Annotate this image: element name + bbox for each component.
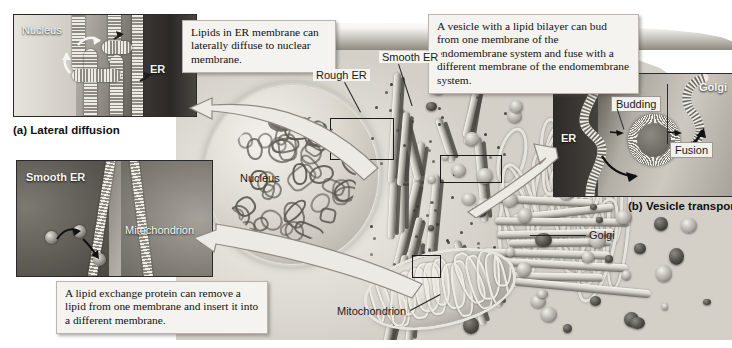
- panel-b-label-mitochondrion: Mitochondrion: [125, 224, 194, 236]
- arrow-to-lateral-diffusion-panel: [182, 76, 397, 186]
- cell-label-mitochondrion: Mitochondrion: [337, 305, 406, 317]
- cell-label-nucleus: Nucleus: [240, 172, 280, 184]
- arrow-to-lipid-exchange-panel: [190, 218, 430, 304]
- panel-lateral-diffusion: Nucleus ER: [13, 14, 197, 117]
- panel-a-caption: (a) Lateral diffusion: [13, 124, 120, 136]
- callout-vesicle-budding-fusion: A vesicle with a lipid bilayer can bud f…: [428, 14, 639, 94]
- arrow-to-vesicle-transport-panel: [460, 138, 570, 218]
- panel-c-fusion-leader: [667, 84, 668, 144]
- panel-c-label-golgi: Golgi: [699, 81, 727, 93]
- panel-c-caption: (b) Vesicle transport: [628, 200, 732, 212]
- cell-label-rough-er: Rough ER: [313, 69, 370, 81]
- panel-b-label-smooth-er: Smooth ER: [26, 171, 85, 183]
- panel-c-label-budding: Budding: [611, 96, 661, 112]
- golgi-leader: [530, 235, 586, 236]
- callout-lateral-diffusion: Lipids in ER membrane can laterally diff…: [182, 20, 336, 73]
- cell-label-golgi: Golgi: [589, 229, 615, 241]
- cell-label-smooth-er: Smooth ER: [379, 51, 441, 63]
- panel-a-label-nucleus: Nucleus: [22, 24, 62, 36]
- panel-c-label-fusion: Fusion: [670, 142, 713, 158]
- panel-a-label-er: ER: [150, 63, 165, 75]
- figure-root: Nucleus ER (a) Lateral diffusion Smooth …: [0, 0, 732, 348]
